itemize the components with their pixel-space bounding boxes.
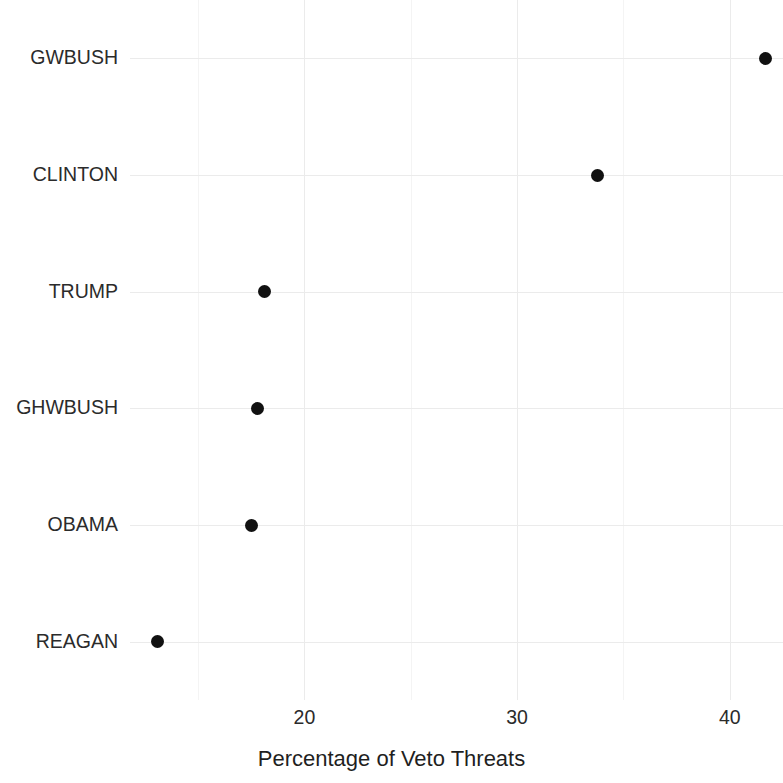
x-tick-label-20: 20 bbox=[294, 708, 316, 728]
x-axis: 203040 bbox=[130, 700, 783, 740]
gridline-vertical-minor bbox=[623, 0, 624, 700]
y-axis: GWBUSHCLINTONTRUMPGHWBUSHOBAMAREAGAN bbox=[0, 0, 118, 700]
y-tick-label-clinton: CLINTON bbox=[33, 165, 118, 185]
x-tick-label-40: 40 bbox=[719, 708, 741, 728]
gridline-vertical-minor bbox=[411, 0, 412, 700]
plot-panel bbox=[130, 0, 783, 700]
gridline-horizontal bbox=[130, 58, 783, 59]
data-point-reagan bbox=[151, 635, 164, 648]
gridline-vertical bbox=[304, 0, 305, 700]
x-axis-title: Percentage of Veto Threats bbox=[0, 748, 783, 770]
dot-plot-chart: GWBUSHCLINTONTRUMPGHWBUSHOBAMAREAGAN 203… bbox=[0, 0, 783, 783]
gridline-vertical bbox=[730, 0, 731, 700]
gridline-vertical-minor bbox=[198, 0, 199, 700]
y-tick-label-ghwbush: GHWBUSH bbox=[16, 399, 118, 419]
gridline-horizontal bbox=[130, 292, 783, 293]
x-tick-label-30: 30 bbox=[506, 708, 528, 728]
data-point-gwbush bbox=[759, 52, 772, 65]
y-tick-label-obama: OBAMA bbox=[48, 515, 118, 535]
gridline-horizontal bbox=[130, 175, 783, 176]
data-point-clinton bbox=[591, 169, 604, 182]
y-tick-label-trump: TRUMP bbox=[49, 282, 118, 302]
y-tick-label-reagan: REAGAN bbox=[36, 632, 118, 652]
data-point-ghwbush bbox=[251, 402, 264, 415]
gridline-horizontal bbox=[130, 408, 783, 409]
gridline-horizontal bbox=[130, 525, 783, 526]
data-point-obama bbox=[245, 519, 258, 532]
y-tick-label-gwbush: GWBUSH bbox=[30, 49, 118, 69]
gridline-vertical bbox=[517, 0, 518, 700]
data-point-trump bbox=[258, 285, 271, 298]
gridline-horizontal bbox=[130, 642, 783, 643]
